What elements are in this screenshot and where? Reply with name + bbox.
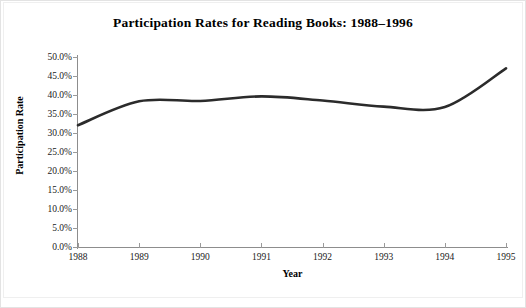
x-tick-label: 1991 bbox=[231, 252, 291, 263]
y-tick-label: 50.0% bbox=[26, 52, 72, 62]
y-tick-label: 15.0% bbox=[26, 185, 72, 195]
y-tick-label: 40.0% bbox=[26, 90, 72, 100]
y-tick-mark bbox=[73, 95, 78, 96]
x-tick-label: 1989 bbox=[109, 252, 169, 263]
y-tick-mark bbox=[73, 228, 78, 229]
x-tick-mark bbox=[78, 243, 79, 248]
chart-title: Participation Rates for Reading Books: 1… bbox=[0, 15, 526, 31]
y-tick-label: 30.0% bbox=[26, 128, 72, 138]
y-axis-title: Participation Rate bbox=[14, 76, 25, 196]
x-tick-label: 1988 bbox=[48, 252, 108, 263]
x-tick-label: 1990 bbox=[170, 252, 230, 263]
x-tick-mark bbox=[261, 243, 262, 248]
x-tick-mark bbox=[506, 243, 507, 248]
x-tick-label: 1993 bbox=[354, 252, 414, 263]
y-tick-mark bbox=[73, 190, 78, 191]
y-tick-label: 10.0% bbox=[26, 204, 72, 214]
x-tick-mark bbox=[323, 243, 324, 248]
x-tick-label: 1992 bbox=[293, 252, 353, 263]
y-tick-label: 20.0% bbox=[26, 166, 72, 176]
x-tick-mark bbox=[200, 243, 201, 248]
y-tick-mark bbox=[73, 133, 78, 134]
y-tick-label: 25.0% bbox=[26, 147, 72, 157]
chart-figure: Participation Rates for Reading Books: 1… bbox=[0, 0, 526, 308]
x-tick-mark bbox=[384, 243, 385, 248]
y-tick-label: 45.0% bbox=[26, 71, 72, 81]
x-tick-label: 1995 bbox=[476, 252, 526, 263]
x-tick-mark bbox=[445, 243, 446, 248]
x-tick-label: 1994 bbox=[415, 252, 475, 263]
y-tick-label: 35.0% bbox=[26, 109, 72, 119]
x-axis-line bbox=[77, 247, 508, 248]
y-tick-label: 0.0% bbox=[26, 242, 72, 252]
y-tick-mark bbox=[73, 57, 78, 58]
y-tick-label: 5.0% bbox=[26, 223, 72, 233]
y-tick-mark bbox=[73, 209, 78, 210]
y-tick-mark bbox=[73, 171, 78, 172]
y-tick-mark bbox=[73, 114, 78, 115]
y-tick-mark bbox=[73, 76, 78, 77]
x-tick-mark bbox=[139, 243, 140, 248]
y-tick-mark bbox=[73, 152, 78, 153]
x-axis-title: Year bbox=[77, 268, 508, 279]
participation-rate-line bbox=[78, 68, 506, 125]
